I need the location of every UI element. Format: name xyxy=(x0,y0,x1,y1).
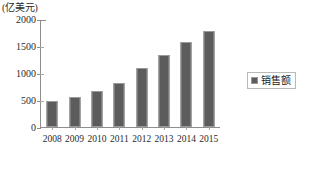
x-tick xyxy=(209,127,210,130)
y-tick-label-1500: 1500 xyxy=(16,42,36,52)
bar xyxy=(159,55,170,127)
bar-slot xyxy=(153,20,175,127)
bar-slot xyxy=(131,20,153,127)
x-tick xyxy=(142,127,143,130)
x-tick xyxy=(186,127,187,130)
bar-chart: (亿美元) 0500100015002000 20082009201020112… xyxy=(0,0,309,171)
bar-slot xyxy=(175,20,197,127)
x-tick xyxy=(75,127,76,130)
x-tick-label-2009: 2009 xyxy=(65,133,84,145)
x-tick-label-2014: 2014 xyxy=(177,133,196,145)
y-tick-label-0: 0 xyxy=(31,123,36,133)
y-tick-label-1000: 1000 xyxy=(16,69,36,79)
x-tick xyxy=(119,127,120,130)
y-tick-label-500: 500 xyxy=(21,96,36,106)
x-axis-line xyxy=(40,127,220,128)
y-tick-label-2000: 2000 xyxy=(16,15,36,25)
bar xyxy=(136,68,147,127)
x-tick xyxy=(164,127,165,130)
chart-legend: 销售额 xyxy=(247,72,296,89)
x-tick-label-2015: 2015 xyxy=(199,133,218,145)
bar-slot xyxy=(198,20,220,127)
y-tick-0 xyxy=(37,128,41,129)
x-tick-label-2012: 2012 xyxy=(132,133,151,145)
bar-slot xyxy=(63,20,85,127)
x-axis-labels: 20082009201020112012201320142015 xyxy=(40,133,220,149)
bar-slot xyxy=(108,20,130,127)
bar xyxy=(203,31,214,127)
x-tick-label-2011: 2011 xyxy=(110,133,129,145)
x-tick xyxy=(97,127,98,130)
bar xyxy=(114,83,125,127)
bar xyxy=(91,91,102,127)
bar-slot xyxy=(41,20,63,127)
bar xyxy=(47,101,58,127)
y-axis-unit-label: (亿美元) xyxy=(2,2,38,13)
bar xyxy=(181,42,192,127)
x-tick xyxy=(52,127,53,130)
plot-area: 0500100015002000 xyxy=(40,20,220,128)
bar-slot xyxy=(86,20,108,127)
bar xyxy=(69,97,80,127)
x-tick-label-2008: 2008 xyxy=(43,133,62,145)
x-tick-label-2010: 2010 xyxy=(87,133,106,145)
bar-series-sales xyxy=(41,20,220,127)
legend-label-sales: 销售额 xyxy=(261,75,291,86)
x-tick-label-2013: 2013 xyxy=(155,133,174,145)
legend-swatch-icon xyxy=(251,77,258,84)
